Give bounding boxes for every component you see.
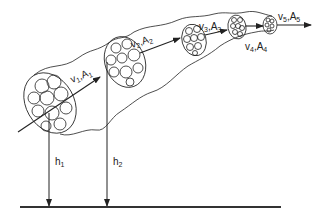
cross-section-1 (13, 63, 87, 142)
cross-section-4 (226, 14, 248, 41)
label-height-2: h2 (113, 156, 123, 168)
label-section-2: v2,A2 (129, 33, 154, 51)
label-height-1: h1 (55, 156, 65, 168)
velocity-arrow-1 (18, 77, 100, 132)
label-section-3: v3,A3 (199, 21, 221, 33)
label-section-4: v4,A4 (245, 41, 267, 53)
stream-tube-diagram: v1,A1 v2,A2 v3,A3 v4,A4 v5,A5 h1 h2 (0, 0, 328, 215)
label-section-1: v1,A1 (69, 66, 94, 86)
cross-section-5 (263, 16, 277, 34)
label-section-5: v5,A5 (278, 11, 300, 23)
flow-arrows (18, 25, 311, 132)
